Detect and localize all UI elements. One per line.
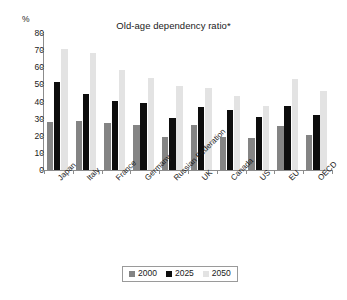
x-axis-tick-mark [217,171,218,174]
bar-canada-2025 [227,110,234,170]
bar-germany-2025 [140,103,147,170]
bar-italy-2050 [90,53,97,170]
x-axis-tick-mark [44,171,45,174]
bar-canada-2050 [234,96,241,170]
bar-uk-2050 [205,88,212,170]
bar-eu-2000 [277,126,284,170]
bar-france-2050 [119,70,126,170]
chart-title: Old-age dependency ratio* [0,20,347,31]
legend-swatch-2050 [203,271,209,277]
x-axis-tick-mark [274,171,275,174]
bar-japan-2000 [47,122,54,170]
bar-oecd-2000 [306,135,313,170]
bar-russian-federation-2050 [176,86,183,170]
bar-oecd-2025 [313,115,320,170]
bar-france-2025 [112,101,119,170]
bar-japan-2050 [61,49,68,170]
legend-swatch-2025 [166,271,172,277]
legend-label-2025: 2025 [175,269,194,278]
chart-container: Old-age dependency ratio* % 807060504030… [0,0,347,300]
chart-legend: 200020252050 [122,266,238,282]
y-axis-unit-label: % [22,15,30,24]
bar-italy-2025 [83,94,90,170]
bar-us-2050 [263,106,270,170]
bar-canada-2000 [220,137,227,170]
plot-area [44,33,332,170]
bar-japan-2025 [54,82,61,170]
legend-swatch-2000 [129,271,135,277]
bar-italy-2000 [76,121,83,170]
bar-oecd-2050 [320,91,327,170]
legend-item-2025[interactable]: 2025 [166,269,194,278]
x-axis-tick-mark [303,171,304,174]
bar-france-2000 [104,123,111,170]
bar-us-2025 [256,117,263,170]
legend-label-2000: 2000 [138,269,157,278]
legend-item-2050[interactable]: 2050 [203,269,231,278]
legend-label-2050: 2050 [212,269,231,278]
bar-russian-federation-2025 [169,118,176,170]
bar-germany-2050 [148,78,155,170]
bar-eu-2050 [292,79,299,170]
legend-item-2000[interactable]: 2000 [129,269,157,278]
bar-eu-2025 [284,106,291,170]
